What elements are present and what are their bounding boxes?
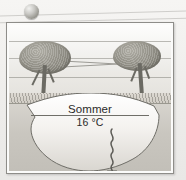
season-label: Sommer [9,103,171,115]
illustration-frame: Sommer 16 °C 4 °C [6,22,174,174]
surface-temperature-label: 16 °C [9,116,171,128]
gray-bead-pin-icon [24,4,39,19]
illustration-scene: Sommer 16 °C 4 °C [9,25,171,171]
tree-icon [17,41,73,101]
wavy-down-arrow-icon [104,128,120,171]
page-root: Sommer 16 °C 4 °C [0,0,186,180]
